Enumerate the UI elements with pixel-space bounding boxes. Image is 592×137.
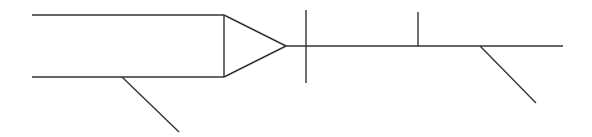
- right-diagonal-branch: [480, 46, 536, 103]
- diagram-lines: [32, 10, 563, 132]
- lower-left-diagonal-branch: [122, 77, 179, 132]
- line-diagram: [0, 0, 592, 137]
- triangle-lower-edge: [224, 46, 286, 77]
- triangle-upper-edge: [224, 15, 286, 46]
